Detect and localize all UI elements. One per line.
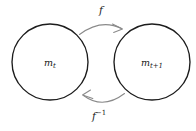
node-m-t-plus-1: mt+1 (114, 24, 190, 100)
arrow-forward-f-head (113, 24, 123, 32)
node-m-t: mt (12, 24, 88, 100)
arrow-forward-f-curve (80, 25, 122, 35)
diagram-canvas: mt mt+1 f f−1 (0, 0, 196, 131)
arrow-inverse-f-label: f−1 (91, 109, 106, 122)
arrow-inverse-f-label-superscript: −1 (96, 109, 106, 117)
node-m-t-label-subscript: t (53, 61, 56, 69)
arrow-forward-f-label: f (98, 4, 105, 16)
node-m-t-plus-1-label-base: m (141, 57, 150, 68)
node-m-t-plus-1-label-subscript: t+1 (150, 61, 163, 69)
arrow-forward-f: f (80, 4, 123, 35)
arrow-forward-f-label-base: f (98, 4, 105, 16)
arrow-inverse-f-head (83, 90, 93, 99)
diagram-svg: mt mt+1 f f−1 (0, 0, 196, 131)
node-m-t-label-base: m (44, 57, 53, 68)
arrow-inverse-f: f−1 (83, 90, 125, 122)
